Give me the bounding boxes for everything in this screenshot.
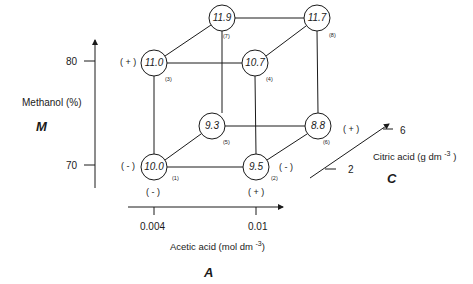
- methanol-high-sign: ( + ): [120, 58, 136, 67]
- acetic-tick-label-001: 0.01: [248, 222, 267, 232]
- citric-tick-label-2: 2: [348, 165, 354, 175]
- acetic-axis-label: Acetic acid (mol dm -3): [170, 240, 265, 252]
- node-6-index: (6): [323, 140, 330, 146]
- node-2-index: (2): [271, 176, 278, 182]
- node-6-value: 8.8: [305, 121, 331, 131]
- node-5-index: (5): [223, 140, 230, 146]
- node-1-index: (1): [172, 176, 179, 182]
- node-4-index: (4): [266, 77, 273, 83]
- node-2-value: 9.5: [243, 162, 269, 172]
- node-7-index: (7): [223, 34, 230, 40]
- methanol-tick-label-80: 80: [66, 57, 77, 67]
- node-8-value: 11.7: [304, 13, 330, 23]
- node-3-value: 11.0: [141, 58, 167, 68]
- node-3-index: (3): [165, 77, 172, 83]
- node-1-value: 10.0: [141, 162, 167, 172]
- factor-m-letter: M: [36, 120, 47, 133]
- acetic-low-sign: ( - ): [146, 188, 160, 197]
- citric-axis-label: Citric acid (g dm -3 ): [373, 150, 456, 162]
- methanol-low-sign: ( - ): [121, 162, 135, 171]
- citric-low-sign: ( - ): [279, 163, 293, 172]
- acetic-tick-label-0004: 0.004: [140, 222, 165, 232]
- node-4-value: 10.7: [242, 58, 268, 68]
- methanol-axis-label: Methanol (%): [22, 98, 81, 108]
- node-5-value: 9.3: [199, 121, 225, 131]
- factor-a-letter: A: [204, 266, 213, 279]
- acetic-high-sign: ( + ): [248, 188, 264, 197]
- citric-high-sign: ( + ): [343, 125, 359, 134]
- node-7-value: 11.9: [209, 13, 235, 23]
- factor-c-letter: C: [387, 172, 396, 185]
- methanol-tick-label-70: 70: [66, 161, 77, 171]
- citric-tick-label-6: 6: [400, 126, 406, 136]
- node-8-index: (8): [329, 33, 336, 39]
